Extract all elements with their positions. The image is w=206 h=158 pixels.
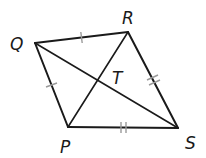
tick-mark-qr <box>81 32 82 43</box>
vertex-label-q: Q <box>10 34 23 54</box>
vertex-label-r: R <box>122 8 134 28</box>
vertex-label-s: S <box>185 133 196 153</box>
intersection-label-t: T <box>112 68 124 88</box>
kite-diagram: Q R S P T <box>0 0 206 158</box>
side-sp <box>68 127 178 128</box>
vertex-label-p: P <box>60 137 71 157</box>
